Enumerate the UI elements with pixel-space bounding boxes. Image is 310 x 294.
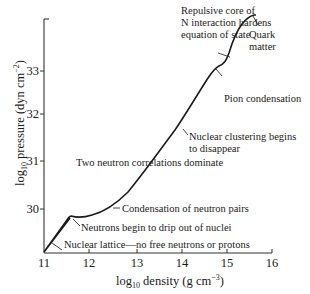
annotation-quark-2: matter <box>249 41 276 52</box>
x-tick-12: 12 <box>83 256 96 270</box>
x-tick-15: 15 <box>221 256 234 270</box>
annotation-repulsive-1: Repulsive core of <box>181 5 256 16</box>
x-tick-16: 16 <box>266 256 279 270</box>
annotation-drip: Neutrons begin to drip out of nuclei <box>81 222 232 233</box>
y-tick-33: 33 <box>27 64 40 78</box>
annotation-lattice: Nuclear lattice—no free neutrons or prot… <box>64 239 250 250</box>
y-tick-30: 30 <box>27 202 40 216</box>
y-ticks <box>40 71 44 209</box>
annotation-two-neutron: Two neutron correlations dominate <box>76 157 223 168</box>
x-axis-label: log10 density (g cm−3) <box>116 273 224 290</box>
annotation-condensation: Condensation of neutron pairs <box>122 203 249 214</box>
y-tick-labels: 30 31 32 33 <box>27 64 40 216</box>
y-axis-label: log10 pressure (dyn cm−2) <box>12 60 29 186</box>
eos-chart: 30 31 32 33 11 12 13 14 15 16 log10 dens… <box>0 0 310 294</box>
annotation-clustering-1: Nuclear clustering begins <box>189 131 296 142</box>
annotation-clustering-2: to disappear <box>189 143 241 154</box>
annotation-pion: Pion condensation <box>224 93 302 104</box>
x-tick-11: 11 <box>38 256 50 270</box>
x-tick-labels: 11 12 13 14 15 16 <box>38 256 278 270</box>
annotation-repulsive-3: equation of state <box>181 29 251 40</box>
x-tick-14: 14 <box>176 256 189 270</box>
annotation-quark-1: Quark <box>249 29 276 40</box>
y-tick-32: 32 <box>27 107 40 121</box>
annotation-repulsive-2: N interaction hardens <box>181 17 271 28</box>
x-tick-13: 13 <box>131 256 144 270</box>
